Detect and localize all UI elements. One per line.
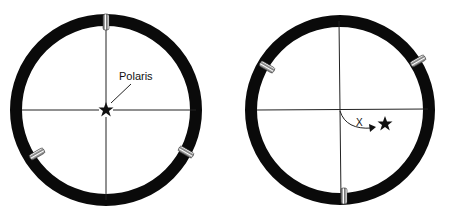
polaris-pointer-line bbox=[111, 84, 131, 103]
left-reticle: Polaris bbox=[16, 14, 196, 200]
adjustment-screw-icon bbox=[341, 188, 347, 204]
offset-x-label: X bbox=[356, 117, 363, 128]
star-icon bbox=[378, 116, 393, 131]
polaris-star-icon bbox=[99, 102, 114, 117]
right-reticle: X bbox=[251, 21, 429, 204]
polaris-label: Polaris bbox=[119, 70, 153, 82]
reticle-diagram: Polaris X bbox=[0, 0, 455, 217]
adjustment-screw-icon bbox=[103, 14, 109, 30]
arrowhead-icon bbox=[369, 124, 376, 132]
crosshair-horizontal bbox=[257, 109, 428, 110]
